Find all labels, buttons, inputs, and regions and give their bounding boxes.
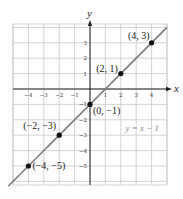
y-tick-label: −3 [79, 132, 88, 138]
x-tick-label: −3 [40, 92, 49, 98]
x-axis-arrow-icon [166, 87, 172, 91]
y-tick-label: −5 [79, 163, 88, 169]
y-tick-label: 3 [84, 40, 88, 46]
x-tick-label: −4 [24, 92, 33, 98]
coordinate-plane: −4−3−2−11234321−1−2−3−4−5 (4, 3)(2, 1)(0… [0, 0, 183, 199]
point-label: (−4, −5) [32, 160, 65, 172]
x-tick-label: 2 [119, 92, 123, 98]
y-tick-label: −1 [79, 101, 87, 107]
x-axis-label: x [173, 82, 179, 94]
data-point-marker [26, 163, 31, 168]
y-axis-label: y [86, 7, 92, 19]
y-tick-label: 1 [84, 71, 88, 77]
x-tick-label: 1 [104, 92, 108, 98]
x-tick-label: −1 [71, 92, 79, 98]
data-point-marker [149, 40, 154, 45]
x-tick-label: 3 [134, 92, 138, 98]
x-tick-label: 4 [150, 92, 154, 98]
equation-label: y = x − 1 [124, 123, 159, 133]
point-label: (−2, −3) [23, 120, 56, 132]
data-point-marker [118, 71, 123, 76]
data-point-marker [57, 133, 62, 138]
data-point-marker [87, 102, 92, 107]
y-tick-label: −4 [79, 148, 88, 154]
y-tick-label: −2 [79, 117, 87, 123]
point-label: (4, 3) [128, 30, 150, 42]
x-tick-label: −2 [55, 92, 63, 98]
y-tick-label: 2 [84, 55, 88, 61]
point-label: (2, 1) [96, 63, 118, 75]
point-label: (0, −1) [93, 105, 120, 117]
y-axis-arrow-icon [88, 20, 92, 26]
